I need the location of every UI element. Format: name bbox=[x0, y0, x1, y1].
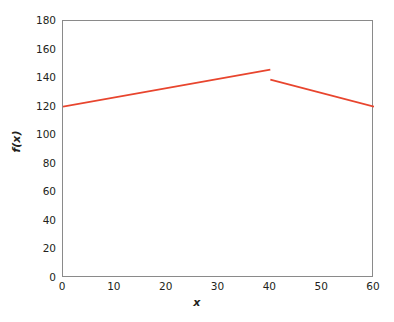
line-segment-1 bbox=[63, 70, 270, 107]
x-tick-label-0: 0 bbox=[47, 280, 77, 292]
y-tick-label-140: 140 bbox=[22, 71, 56, 83]
plot-area bbox=[62, 20, 373, 277]
x-tick-label-60: 60 bbox=[358, 280, 388, 292]
x-tick-label-10: 10 bbox=[99, 280, 129, 292]
y-tick-label-180: 180 bbox=[22, 14, 56, 26]
x-tick-label-50: 50 bbox=[306, 280, 336, 292]
y-tick-label-100: 100 bbox=[22, 128, 56, 140]
y-tick-label-80: 80 bbox=[22, 157, 56, 169]
line-segment-2 bbox=[270, 80, 374, 107]
x-tick-label-30: 30 bbox=[203, 280, 233, 292]
x-tick-label-20: 20 bbox=[151, 280, 181, 292]
data-series-svg bbox=[63, 21, 374, 278]
y-tick-label-20: 20 bbox=[22, 242, 56, 254]
y-axis-label: f(x) bbox=[10, 112, 23, 172]
y-tick-label-120: 120 bbox=[22, 100, 56, 112]
x-axis-label: x bbox=[0, 296, 394, 309]
y-tick-label-40: 40 bbox=[22, 214, 56, 226]
line-series-group bbox=[63, 70, 374, 107]
y-tick-label-60: 60 bbox=[22, 185, 56, 197]
y-tick-label-160: 160 bbox=[22, 43, 56, 55]
chart-figure: 020406080100120140160180 0102030405060 x… bbox=[0, 0, 394, 322]
x-tick-label-40: 40 bbox=[254, 280, 284, 292]
